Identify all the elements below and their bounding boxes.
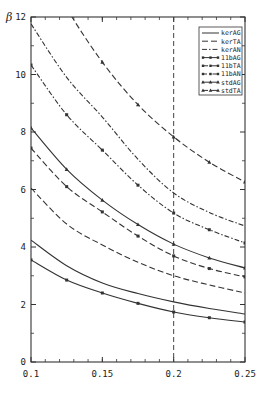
x-tick-label: 0.2 <box>166 369 182 379</box>
series-kerTA <box>31 188 245 293</box>
y-tick-label: 2 <box>21 300 26 310</box>
y-tick-label: 10 <box>15 70 26 80</box>
y-tick-label: 6 <box>21 185 26 195</box>
legend-label-kerAG: kerAG <box>221 29 241 37</box>
series-11bTA <box>31 148 245 277</box>
legend-label-stdAG: stdAG <box>221 79 241 87</box>
legend-label-11bAG: 11bAG <box>221 54 241 62</box>
y-tick-label: 12 <box>15 12 26 22</box>
y-tick-label: 4 <box>21 242 26 252</box>
legend-label-11bAN: 11bAN <box>221 70 241 78</box>
x-tick-label: 0.15 <box>91 369 113 379</box>
beta-line-chart: 0246810120.10.150.20.25 kerAGkerTAkerAN1… <box>0 0 259 393</box>
series-stdAG <box>31 128 245 268</box>
legend-label-stdTA: stdTA <box>221 87 241 95</box>
y-tick-label: 0 <box>21 357 26 367</box>
legend-label-11bTA: 11bTA <box>221 62 241 70</box>
x-tick-label: 0.1 <box>23 369 39 379</box>
legend-label-kerTA: kerTA <box>221 38 241 46</box>
y-axis-label: β <box>5 11 12 24</box>
legend: kerAGkerTAkerAN11bAG11bTA11bANstdAGstdTA <box>199 27 242 95</box>
x-tick-label: 0.25 <box>234 369 256 379</box>
y-tick-label: 8 <box>21 127 26 137</box>
legend-label-kerAN: kerAN <box>221 46 241 54</box>
